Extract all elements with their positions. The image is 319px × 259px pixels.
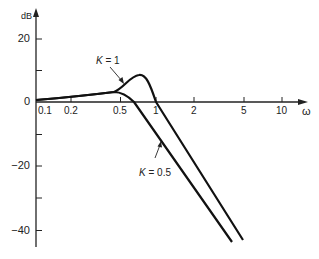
annotation-arrow-k-0-5 bbox=[155, 141, 162, 158]
bode-magnitude-plot bbox=[0, 0, 319, 259]
annotation-k-0-5-value: = 0.5 bbox=[146, 167, 171, 178]
x-tick-label-0-2: 0.2 bbox=[64, 106, 78, 116]
annotation-k-0-5: K = 0.5 bbox=[139, 168, 171, 178]
annotation-k-1: K = 1 bbox=[96, 56, 120, 66]
x-tick-label-10: 10 bbox=[276, 106, 287, 116]
annotation-k-1-symbol: K bbox=[96, 55, 103, 66]
y-tick-label-0: 0 bbox=[4, 96, 30, 107]
y-tick-label-minus-40: −40 bbox=[4, 225, 30, 236]
x-ticks bbox=[71, 97, 282, 102]
y-axis-arrow-icon bbox=[33, 8, 39, 17]
x-tick-label-0-1: 0.1 bbox=[38, 106, 52, 116]
y-tick-label-20: 20 bbox=[4, 33, 30, 44]
annotation-k-0-5-symbol: K bbox=[139, 167, 146, 178]
x-tick-label-0-5: 0.5 bbox=[113, 106, 127, 116]
annotation-k-1-value: = 1 bbox=[103, 55, 120, 66]
y-axis-label: dB bbox=[21, 12, 32, 21]
y-ticks bbox=[36, 39, 42, 231]
annotation-arrow-k-1 bbox=[110, 67, 124, 84]
x-tick-label-2: 2 bbox=[191, 106, 197, 116]
y-tick-label-minus-20: −20 bbox=[4, 160, 30, 171]
x-tick-label-1: 1 bbox=[153, 106, 159, 116]
x-axis-label: ω bbox=[302, 106, 311, 117]
x-tick-label-5: 5 bbox=[241, 106, 247, 116]
